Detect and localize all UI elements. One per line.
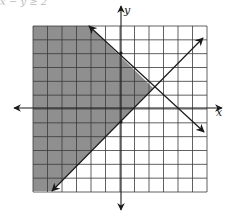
y-axis-label: y [123,4,131,17]
y-intercept-dot-upper [119,51,122,54]
y-intercept-dot-lower [119,120,122,123]
x-axis-label: x [216,106,223,119]
problem-caption: x − y ≥ 2 [0,0,47,7]
coordinate-plane: y x [0,0,236,218]
inequality-graph-figure: x − y ≥ 2 y x [0,0,236,218]
